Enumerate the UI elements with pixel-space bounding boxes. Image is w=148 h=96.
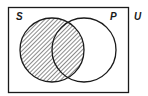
universe-label: U	[134, 11, 142, 22]
venn-diagram: S P U	[0, 0, 148, 96]
set-s-label: S	[16, 11, 23, 22]
set-p-label: P	[110, 11, 117, 22]
